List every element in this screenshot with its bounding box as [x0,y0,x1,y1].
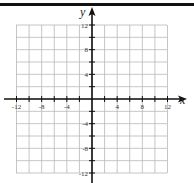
coordinate-plane: -12-8-448121284-4-8-12 x y [0,0,194,183]
x-tick-label: -12 [12,103,22,111]
y-tick-label: 4 [85,71,89,79]
x-tick-label: -4 [64,103,70,111]
x-tick-label: 12 [164,103,172,111]
x-axis-label: x [179,93,186,107]
x-tick-label: 4 [115,103,119,111]
y-axis-label: y [79,5,86,19]
y-tick-label: -8 [82,145,88,153]
y-tick-label: -12 [79,170,89,178]
y-tick-label: 12 [81,22,89,30]
y-tick-label: -4 [82,120,88,128]
y-tick-label: 8 [85,46,89,54]
axes [4,7,187,183]
x-tick-label: -8 [39,103,45,111]
x-tick-label: 8 [141,103,145,111]
